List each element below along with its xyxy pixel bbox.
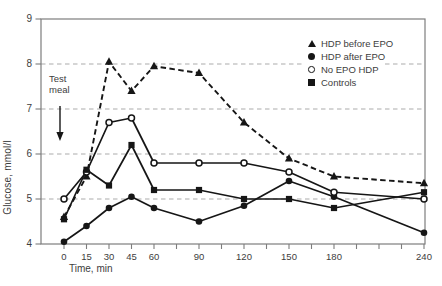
filled-square-marker: [196, 187, 202, 193]
y-tick-label: 7: [26, 103, 32, 114]
filled-circle-marker: [106, 205, 113, 212]
filled-circle-marker: [128, 193, 135, 200]
open-circle-marker: [241, 160, 247, 166]
filled-circle-marker: [61, 238, 68, 245]
x-tick-label: 45: [126, 251, 137, 262]
filled-circle-marker: [196, 218, 203, 225]
filled-triangle-marker: [150, 62, 158, 69]
filled-square-marker: [286, 196, 292, 202]
filled-square-marker: [151, 187, 157, 193]
open-circle-marker: [331, 189, 337, 195]
x-tick-label: 180: [326, 251, 342, 262]
open-circle-marker: [286, 169, 292, 175]
y-tick-label: 4: [26, 238, 32, 249]
filled-circle-marker: [286, 178, 293, 185]
x-tick-label: 240: [416, 251, 432, 262]
y-tick-label: 6: [26, 148, 32, 159]
filled-square-marker: [331, 205, 337, 211]
x-tick-label: 30: [104, 251, 115, 262]
series-line-no-epo-hdp: [64, 118, 424, 199]
filled-square-icon: [307, 79, 316, 86]
x-tick-label: 90: [194, 251, 205, 262]
x-tick-label: 60: [149, 251, 160, 262]
x-tick-label: 15: [81, 251, 92, 262]
test-meal-annotation: Test meal: [49, 73, 87, 95]
filled-square-marker: [128, 142, 134, 148]
x-tick-label: 120: [236, 251, 252, 262]
open-circle-marker: [106, 120, 112, 126]
legend-label: Controls: [321, 77, 356, 88]
filled-circle-marker: [83, 223, 90, 230]
filled-triangle-icon: [307, 40, 316, 47]
test-meal-arrowhead: [56, 132, 63, 141]
filled-circle-icon: [307, 53, 316, 60]
x-tick-label: 0: [61, 251, 66, 262]
legend-item: HDP before EPO: [305, 37, 396, 50]
series-line-hdp-after-epo: [64, 181, 424, 242]
filled-triangle-marker: [105, 57, 113, 64]
filled-square-marker: [61, 216, 67, 222]
open-circle-marker: [129, 115, 135, 121]
filled-circle-marker: [151, 205, 158, 212]
legend-label: HDP before EPO: [321, 38, 393, 49]
filled-square-marker: [241, 196, 247, 202]
filled-triangle-marker: [285, 154, 293, 161]
open-circle-marker: [421, 196, 427, 202]
x-axis-title: Time, min: [69, 263, 113, 274]
legend: HDP before EPO HDP after EPO No EPO HDP …: [305, 37, 396, 89]
filled-square-marker: [421, 189, 427, 195]
y-tick-label: 9: [26, 13, 32, 24]
filled-square-marker: [106, 182, 112, 188]
glucose-chart: 45678901530456090120150180240 Glucose, m…: [0, 0, 442, 286]
y-tick-label: 8: [26, 58, 32, 69]
open-circle-marker: [196, 160, 202, 166]
filled-square-marker: [83, 167, 89, 173]
y-axis-title: Glucose, mmol/l: [2, 108, 13, 248]
legend-item: Controls: [305, 76, 359, 89]
open-circle-marker: [151, 160, 157, 166]
filled-circle-marker: [241, 202, 248, 209]
legend-label: HDP after EPO: [321, 51, 385, 62]
legend-item: HDP after EPO: [305, 50, 388, 63]
legend-item: No EPO HDP: [305, 63, 382, 76]
legend-label: No EPO HDP: [321, 64, 379, 75]
filled-circle-marker: [421, 229, 428, 236]
open-circle-icon: [307, 66, 316, 73]
y-tick-label: 5: [26, 193, 32, 204]
open-circle-marker: [61, 196, 67, 202]
x-tick-label: 150: [281, 251, 297, 262]
